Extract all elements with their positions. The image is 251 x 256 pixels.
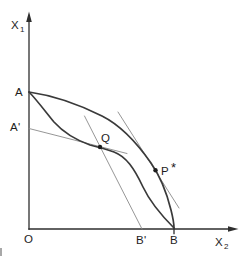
point-a-prime-label: A' — [10, 122, 20, 134]
point-b-prime-label: B' — [136, 235, 146, 247]
x-axis-label-subscript: 2 — [224, 242, 229, 251]
point-p-star-label: P* — [161, 164, 176, 178]
figure-canvas: X1 A A' Q P* O B' B X2 — [0, 0, 251, 256]
outer-transformation-curve — [29, 92, 174, 228]
x-axis-label: X2 — [215, 237, 229, 249]
point-p-star-marker — [153, 168, 157, 172]
point-q-marker — [98, 145, 102, 149]
point-b-label: B — [170, 235, 178, 247]
diagram-svg — [0, 0, 251, 256]
point-q-label: Q — [101, 133, 110, 145]
x-axis-label-base: X — [215, 236, 223, 248]
origin-label: O — [24, 234, 33, 246]
price-line-a-prime-through-q — [29, 129, 127, 154]
y-axis-arrowhead-icon — [26, 12, 32, 23]
y-axis-label-base: X — [11, 19, 19, 31]
y-axis-label: X1 — [11, 20, 25, 32]
scan-artifact — [0, 248, 2, 256]
inner-transformation-curve — [29, 92, 174, 228]
point-a-label: A — [15, 87, 23, 99]
point-p-star-label-asterisk: * — [171, 160, 176, 175]
steep-line-q-to-b-prime — [85, 116, 143, 229]
y-axis-label-subscript: 1 — [20, 25, 25, 34]
x-axis-arrowhead-icon — [228, 226, 239, 232]
point-p-star-label-base: P — [161, 165, 169, 177]
